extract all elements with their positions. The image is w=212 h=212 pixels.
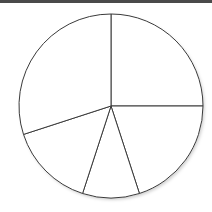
pie-chart [0,0,212,212]
pie-slices [19,14,203,198]
pie-slice-1 [111,14,203,106]
